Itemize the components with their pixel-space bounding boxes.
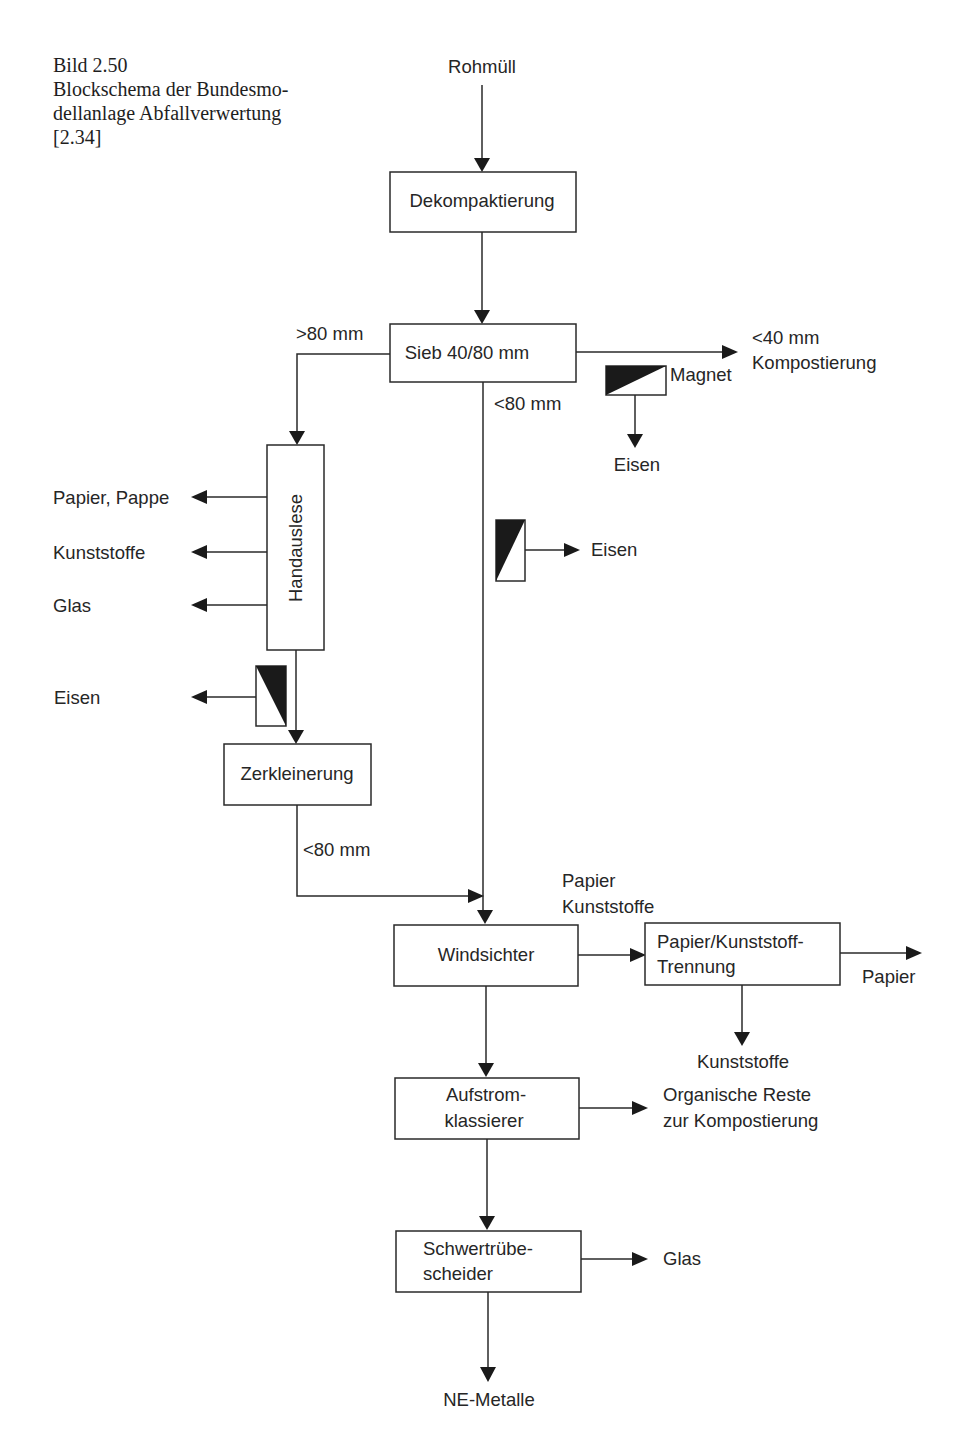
node-dekompaktierung-label: Dekompaktierung (410, 190, 555, 211)
node-trennung-label-1: Papier/Kunststoff- (657, 931, 804, 952)
label-organische-reste: Organische Reste (663, 1084, 811, 1105)
label-magnet: Magnet (670, 364, 732, 385)
arrow-down-icon (734, 1032, 750, 1046)
arrow-down-icon (289, 431, 305, 445)
label-glas-out: Glas (663, 1248, 701, 1269)
arrow-left-icon (191, 490, 207, 504)
label-zur-kompostierung: zur Kompostierung (663, 1110, 818, 1131)
label-kompostierung: Kompostierung (752, 352, 876, 373)
arrow-down-icon (474, 158, 490, 172)
arrow-down-icon (478, 1063, 494, 1077)
label-ne-metalle: NE-Metalle (443, 1389, 535, 1410)
arrow-down-icon (480, 1367, 496, 1382)
arrow-right-icon (630, 948, 646, 962)
arrow-down-icon (479, 1216, 495, 1230)
flow-line (297, 354, 390, 432)
arrow-down-icon (474, 310, 490, 324)
node-handauslese-label: Handauslese (285, 494, 306, 602)
block-diagram: Rohmüll Dekompaktierung Sieb 40/80 mm >8… (0, 0, 967, 1448)
arrow-right-icon (564, 543, 580, 557)
arrow-right-icon (468, 889, 484, 903)
arrow-right-icon (906, 946, 922, 960)
label-wind-out-kunststoffe: Kunststoffe (562, 896, 654, 917)
arrow-left-icon (191, 690, 207, 704)
input-label-rohmuell: Rohmüll (448, 56, 516, 77)
label-wind-out-papier: Papier (562, 870, 615, 891)
arrow-down-icon (477, 910, 493, 924)
label-papier-pappe: Papier, Pappe (53, 487, 169, 508)
arrow-down-icon (288, 730, 304, 744)
arrow-left-icon (191, 545, 207, 559)
node-zerkleinerung-label: Zerkleinerung (240, 763, 353, 784)
label-gt80: >80 mm (296, 323, 363, 344)
label-lt80-zerk: <80 mm (303, 839, 370, 860)
label-kunststoffe-out: Kunststoffe (697, 1051, 789, 1072)
label-papier-out: Papier (862, 966, 915, 987)
label-kunststoffe-hand: Kunststoffe (53, 542, 145, 563)
label-eisen-mid: Eisen (591, 539, 637, 560)
arrow-right-icon (632, 1252, 648, 1266)
node-sieb-label: Sieb 40/80 mm (405, 342, 529, 363)
label-eisen-left: Eisen (54, 687, 100, 708)
label-lt80-sieb: <80 mm (494, 393, 561, 414)
label-lt40: <40 mm (752, 327, 819, 348)
label-glas-hand: Glas (53, 595, 91, 616)
label-eisen-magnet: Eisen (614, 454, 660, 475)
arrow-right-icon (722, 345, 738, 359)
node-schwer-label-1: Schwertrübe- (423, 1238, 533, 1259)
arrow-down-icon (627, 434, 643, 448)
node-windsichter-label: Windsichter (438, 944, 535, 965)
node-trennung-label-2: Trennung (657, 956, 736, 977)
node-aufstrom-label-1: Aufstrom- (446, 1084, 526, 1105)
node-aufstrom-label-2: klassierer (444, 1110, 523, 1131)
arrow-right-icon (632, 1101, 648, 1115)
node-schwer-label-2: scheider (423, 1263, 493, 1284)
arrow-left-icon (191, 598, 207, 612)
